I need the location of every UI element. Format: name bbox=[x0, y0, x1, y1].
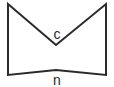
diagram-canvas: c n bbox=[0, 0, 114, 87]
label-n: n bbox=[53, 72, 61, 87]
label-c: c bbox=[54, 26, 61, 42]
